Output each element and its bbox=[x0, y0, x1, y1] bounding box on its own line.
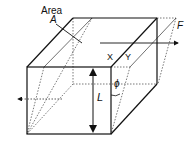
sheared-outline bbox=[27, 18, 176, 134]
shear-angle-label: ϕ bbox=[114, 79, 120, 89]
angle-arc bbox=[111, 94, 120, 96]
arrow-down-icon bbox=[89, 125, 97, 133]
point-x-label: X bbox=[107, 53, 113, 62]
block-drawing bbox=[0, 0, 196, 151]
area-symbol-label: A bbox=[50, 15, 57, 25]
length-label: L bbox=[97, 92, 103, 103]
area-leader-line bbox=[56, 24, 82, 43]
force-label: F bbox=[177, 21, 183, 31]
point-y-label: Y bbox=[125, 53, 131, 62]
shear-diagram: Area A X Y F L ϕ bbox=[0, 0, 196, 151]
arrow-up-icon bbox=[89, 68, 97, 76]
